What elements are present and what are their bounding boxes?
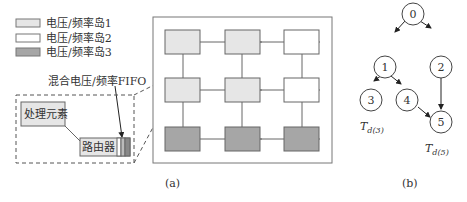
legend-swatch-2 [16, 34, 40, 42]
legend: 电压/频率岛1 电压/频率岛2 电压/频率岛3 [16, 16, 112, 59]
node-1-label: 1 [382, 61, 389, 74]
node-4-label: 4 [404, 94, 411, 107]
node-0-label: 0 [410, 8, 417, 21]
legend-label-3: 电压/频率岛3 [46, 45, 112, 59]
legend-swatch-3 [16, 48, 40, 56]
legend-swatch-1 [16, 19, 40, 27]
deadline-3: Td(3) [360, 120, 384, 135]
caption-b: (b) [402, 177, 418, 190]
fifo [125, 138, 130, 156]
pe-label: 处理元素 [24, 108, 68, 121]
mesh: (a) [153, 17, 332, 190]
deadline-5: Td(5) [425, 142, 449, 157]
node-3-label: 3 [368, 94, 375, 107]
figure: 电压/频率岛1 电压/频率岛2 电压/频率岛3 混合电压/频率FIFO 处理元素… [0, 0, 467, 202]
fifo-label: 混合电压/频率FIFO [48, 74, 146, 88]
legend-label-1: 电压/频率岛1 [46, 16, 112, 30]
node-2-label: 2 [438, 61, 445, 74]
node-5-label: 5 [438, 116, 445, 129]
router-label: 路由器 [82, 140, 115, 154]
caption-a: (a) [165, 177, 180, 190]
task-graph: 0 1 2 3 4 5 Td(3) Td(5) (b) [360, 3, 452, 190]
legend-label-2: 电压/频率岛2 [46, 31, 112, 45]
node-detail: 混合电压/频率FIFO 处理元素 路由器 [16, 74, 166, 163]
